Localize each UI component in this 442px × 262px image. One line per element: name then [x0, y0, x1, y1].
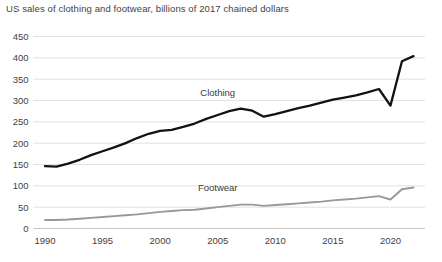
chart-plot-area: 050100150200250300350400450 199019952000…	[0, 0, 442, 262]
ytick-label-350: 350	[13, 74, 29, 85]
xtick-label-2000: 2000	[150, 235, 171, 246]
series-group	[45, 56, 413, 220]
xtick-label-2020: 2020	[380, 235, 401, 246]
ytick-label-400: 400	[13, 52, 29, 63]
ytick-label-250: 250	[13, 116, 29, 127]
xtick-labels-group: 1990199520002005201020152020	[34, 235, 401, 246]
series-labels-group: ClothingFootwear	[198, 87, 238, 193]
ytick-label-150: 150	[13, 159, 29, 170]
xtick-label-1990: 1990	[34, 235, 55, 246]
ytick-label-100: 100	[13, 180, 29, 191]
ytick-label-50: 50	[18, 202, 29, 213]
series-line-clothing	[45, 56, 413, 167]
xtick-label-1995: 1995	[92, 235, 113, 246]
ytick-labels-group: 050100150200250300350400450	[13, 31, 29, 234]
series-label-clothing: Clothing	[200, 87, 235, 98]
series-label-footwear: Footwear	[198, 182, 238, 193]
ytick-label-0: 0	[23, 223, 28, 234]
ytick-label-300: 300	[13, 95, 29, 106]
gridlines-group	[34, 37, 426, 229]
xtick-label-2010: 2010	[265, 235, 286, 246]
xtick-label-2015: 2015	[322, 235, 343, 246]
ytick-label-450: 450	[13, 31, 29, 42]
xtick-label-2005: 2005	[207, 235, 228, 246]
chart-container: US sales of clothing and footwear, billi…	[0, 0, 442, 262]
ytick-label-200: 200	[13, 138, 29, 149]
